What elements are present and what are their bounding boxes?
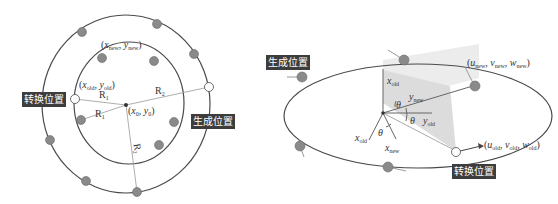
- label-r1-a: R1: [99, 90, 109, 101]
- radius-r2: [126, 87, 209, 105]
- axis-x-old-up: xold: [387, 76, 399, 87]
- label-old-vector: (uold, vold, wold): [484, 140, 540, 151]
- inner-dots: [77, 54, 179, 150]
- old-position-point: [452, 148, 461, 157]
- label-center: (x0, y0): [128, 106, 155, 117]
- angle-theta-lower: θ: [378, 128, 383, 138]
- label-r2-b: R2: [131, 143, 144, 154]
- tag-generate-position-right: 生成位置: [266, 55, 310, 70]
- axis-x-new: xnew: [385, 143, 399, 154]
- tag-transform-position-right: 转换位置: [452, 164, 496, 179]
- axis-y-new: ynew: [409, 92, 423, 103]
- axis-y-old: yold: [423, 116, 435, 127]
- label-r1-b: R1: [95, 109, 105, 120]
- old-position-point: [71, 95, 80, 104]
- label-old-point: (xold, yold): [79, 80, 115, 91]
- tag-generate-position-left: 生成位置: [191, 114, 235, 129]
- inner-circle: [74, 42, 184, 164]
- angle-theta-upper: θ: [396, 100, 401, 110]
- label-new-point: (xnew, ynew): [101, 40, 142, 51]
- axis-x-old-down: xold: [355, 133, 367, 144]
- new-generated-point: [205, 83, 214, 92]
- label-new-vector: (unew, vnew, wnew): [467, 58, 530, 69]
- tag-transform-position-left: 转换位置: [22, 92, 66, 107]
- angle-theta-right: θ: [410, 116, 415, 126]
- label-r2-a: R2: [155, 86, 165, 97]
